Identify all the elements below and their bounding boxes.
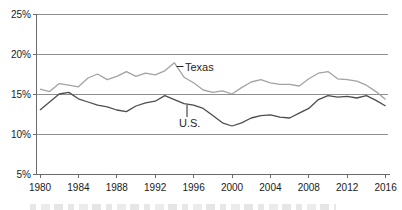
- y-tick-label-20: 20%: [11, 49, 31, 60]
- y-tick-label-10: 10%: [11, 129, 31, 140]
- texas-series-label: Texas: [185, 61, 214, 73]
- texas-vs-us-line-chart: 25%20%15%10%5%19801984198819921996200020…: [0, 0, 402, 198]
- us-line: [40, 92, 386, 126]
- x-tick-label-2008: 2008: [298, 182, 321, 193]
- x-tick-label-1992: 1992: [144, 182, 167, 193]
- x-tick-label-1980: 1980: [29, 182, 52, 193]
- chart-figure: 25%20%15%10%5%19801984198819921996200020…: [0, 0, 402, 210]
- x-tick-label-2016: 2016: [374, 182, 397, 193]
- x-tick-label-1984: 1984: [67, 182, 90, 193]
- x-tick-label-1996: 1996: [182, 182, 205, 193]
- y-tick-label-5: 5%: [17, 169, 32, 180]
- x-tick-label-2000: 2000: [221, 182, 244, 193]
- x-tick-label-1988: 1988: [106, 182, 129, 193]
- y-tick-label-25: 25%: [11, 9, 31, 20]
- x-tick-label-2012: 2012: [336, 182, 359, 193]
- truncated-caption: [30, 204, 336, 210]
- y-tick-label-15: 15%: [11, 89, 31, 100]
- us-series-label: U.S.: [179, 117, 200, 129]
- x-tick-label-2004: 2004: [259, 182, 282, 193]
